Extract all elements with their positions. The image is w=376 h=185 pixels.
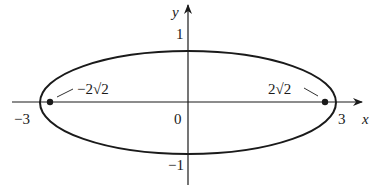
ellipse-diagram: −2√2 2√2 −3 3 0 1 −1 x y bbox=[0, 0, 376, 185]
tick-label-x-pos: 3 bbox=[338, 111, 346, 127]
left-focus-leader bbox=[57, 89, 73, 97]
left-focus-point bbox=[47, 99, 53, 105]
tick-label-x-neg: −3 bbox=[14, 111, 30, 127]
x-axis-label: x bbox=[361, 111, 369, 127]
right-focus-point bbox=[322, 99, 328, 105]
focus-label-left: −2√2 bbox=[77, 81, 109, 97]
right-focus-leader bbox=[304, 88, 318, 96]
y-axis-label: y bbox=[170, 4, 179, 20]
tick-label-y-pos: 1 bbox=[176, 26, 184, 42]
focus-label-right: 2√2 bbox=[268, 81, 291, 97]
tick-label-origin: 0 bbox=[174, 111, 182, 127]
tick-label-y-neg: −1 bbox=[168, 157, 184, 173]
